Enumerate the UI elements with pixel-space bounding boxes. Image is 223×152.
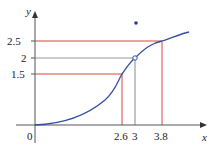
y-tick-label-2.5: 2.5: [7, 35, 21, 47]
function-curve: [35, 32, 189, 125]
x-axis-label: x: [201, 131, 207, 143]
x-axis-arrow-icon: [200, 122, 207, 128]
y-tick-label-2: 2: [21, 52, 27, 64]
origin-label: 0: [27, 130, 33, 142]
y-axis-arrow-icon: [32, 11, 38, 18]
open-point: [133, 56, 137, 60]
x-tick-label-3.8: 3.8: [154, 130, 168, 142]
chart-canvas: y x 0 2.5 2 1.5 2.6 3 3.8: [0, 0, 223, 152]
x-tick-label-3: 3: [132, 130, 138, 142]
y-axis-label: y: [25, 5, 31, 17]
x-tick-label-2.6: 2.6: [114, 130, 128, 142]
y-tick-label-1.5: 1.5: [11, 68, 25, 80]
filled-point: [134, 21, 138, 25]
